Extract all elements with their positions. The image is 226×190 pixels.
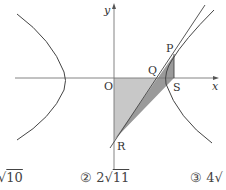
hyperbola-figure: y x O P Q S R [0,0,226,170]
y-axis-arrow-icon [112,3,116,9]
option-3-number: ③ [190,170,202,185]
option-2-number: ② [80,170,92,185]
hyperbola-left-branch [17,14,66,140]
point-q-label: Q [148,64,157,77]
point-s-label: S [173,81,181,94]
option-1-radicand: 10 [6,170,23,185]
x-axis-label: x [212,80,219,93]
line-rp [110,5,205,148]
origin-label: O [104,80,113,93]
option-3[interactable]: ③ 4√ [190,170,223,185]
sqrt-icon: √ [214,170,222,185]
point-p-label: P [166,42,174,55]
point-r-label: R [117,140,126,153]
y-axis-label: y [103,4,111,17]
option-2[interactable]: ② 2√11 [80,170,129,185]
option-2-radicand: 11 [113,170,130,185]
option-1[interactable]: √10 [0,170,23,185]
sqrt-icon: √ [104,170,112,185]
